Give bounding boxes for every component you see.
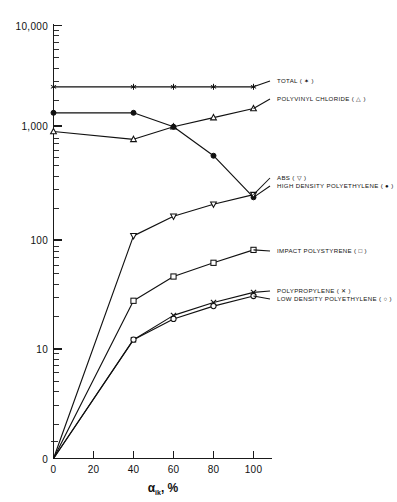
x-tick-label: 60	[168, 464, 180, 475]
y-tick-label: 0	[42, 454, 48, 465]
series-polyvinyl-chloride	[51, 105, 257, 141]
series-line	[54, 250, 254, 459]
legend-label-pvc: POLYVINYL CHLORIDE ( △ )	[277, 95, 366, 102]
data-point-circle-filled	[211, 153, 216, 158]
x-axis-title-unit: , %	[161, 481, 179, 495]
x-tick-label: 40	[128, 464, 140, 475]
chart-container: 10,0001,000100100 020406080100 TOTAL ( ✶…	[0, 0, 397, 502]
legend-leader	[254, 81, 271, 87]
x-tick-label: 0	[51, 464, 57, 475]
legend-label-total: TOTAL ( ✶ )	[277, 77, 314, 84]
x-axis-title: αik, %	[148, 481, 179, 496]
data-point-triangle-open	[211, 114, 217, 119]
svg-text:αik, %: αik, %	[148, 481, 179, 496]
legend-leader	[254, 99, 271, 108]
legend-label-ldpe: LOW DENSITY POLYETHYLENE ( ○ )	[277, 295, 392, 302]
y-tick-label: 10,000	[16, 21, 49, 32]
y-tick-label: 10	[36, 344, 48, 355]
data-point-triangle-down-open	[211, 202, 217, 207]
data-point-square-open	[171, 274, 176, 279]
data-point-square-open	[211, 260, 216, 265]
data-point-circle-open	[211, 303, 216, 308]
y-tick-label: 100	[30, 235, 48, 246]
x-axis-tick-labels: 020406080100	[51, 464, 263, 475]
y-tick-label: 1,000	[21, 121, 48, 132]
series-abs	[54, 192, 257, 458]
data-point-circle-open	[131, 337, 136, 342]
data-point-triangle-open	[131, 136, 137, 141]
series-line	[54, 296, 254, 458]
legend-label-abs: ABS ( ▽ )	[277, 174, 306, 181]
x-axis-ticks	[54, 451, 254, 459]
legend-label-pp: POLYPROPYLENE ( ✕ )	[277, 287, 351, 294]
line-chart: 10,0001,000100100 020406080100 TOTAL ( ✶…	[0, 0, 397, 502]
legend-leader	[254, 291, 271, 292]
legend-label-ips: IMPACT POLYSTYRENE ( □ )	[277, 247, 367, 254]
data-point-triangle-down-open	[171, 214, 177, 219]
series-line	[54, 195, 254, 459]
legend-label-hdpe: HIGH DENSITY POLYETHYLENE ( ● )	[277, 182, 394, 189]
series-total	[51, 84, 256, 90]
x-tick-label: 80	[208, 464, 220, 475]
data-point-square-open	[131, 298, 136, 303]
series-impact-polystyrene	[54, 247, 257, 458]
data-point-circle-open	[171, 316, 176, 321]
series-line	[54, 113, 254, 198]
x-tick-label: 20	[88, 464, 100, 475]
legend-leader-lines	[254, 81, 271, 299]
y-axis-tick-labels: 10,0001,000100100	[16, 21, 49, 465]
data-point-triangle-down-open	[131, 234, 137, 239]
data-point-circle-filled	[171, 124, 176, 129]
legend: TOTAL ( ✶ )POLYVINYL CHLORIDE ( △ )ABS (…	[277, 77, 394, 302]
series-low-density-polyethylene	[54, 293, 257, 458]
data-series-layer	[51, 84, 257, 459]
data-point-triangle-open	[51, 128, 57, 133]
series-high-density-polyethylene	[51, 110, 256, 200]
data-point-circle-filled	[131, 110, 136, 115]
data-point-circle-filled	[51, 110, 56, 115]
x-tick-label: 100	[245, 464, 263, 475]
